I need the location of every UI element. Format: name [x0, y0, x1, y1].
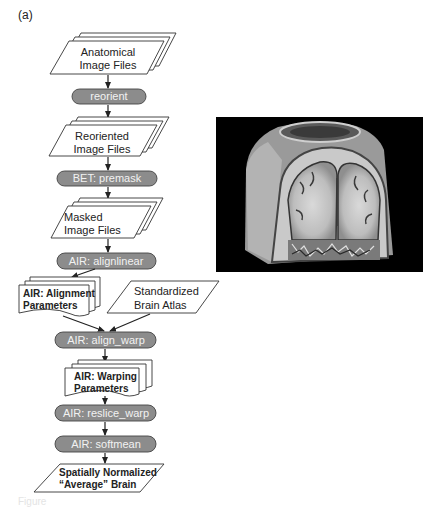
node-label-line2: Image Files [64, 224, 121, 236]
node-reoriented-image-files: Reoriented Image Files [49, 117, 169, 156]
node-air-reslice-warp: AIR: reslice_warp [55, 405, 156, 421]
brain-rendering-image [216, 117, 423, 272]
node-label-line1: AIR: Warping [74, 371, 137, 382]
node-label-line1: Masked [64, 211, 103, 223]
node-label-line2: Brain Atlas [134, 299, 187, 311]
node-label-line2: Parameters [74, 383, 129, 394]
node-air-warping-parameters: AIR: Warping Parameters [65, 360, 152, 396]
node-label-line2: Image Files [74, 143, 131, 155]
node-label-line2: “Average” Brain [59, 479, 136, 490]
node-standardized-brain-atlas: Standardized Brain Atlas [107, 281, 219, 313]
node-label-line1: Reoriented [75, 130, 129, 142]
edge-arrow [110, 314, 150, 331]
process-label: BET: premask [73, 172, 142, 184]
node-reorient: reorient [72, 89, 146, 104]
node-spatially-normalized-average-brain: Spatially Normalized “Average” Brain [34, 464, 164, 492]
node-label-line2: Image Files [80, 59, 137, 71]
node-air-alignlinear: AIR: alignlinear [57, 253, 156, 269]
node-label-line1: AIR: Alignment [23, 288, 96, 299]
node-bet-premask: BET: premask [57, 171, 157, 186]
node-label-line1: Standardized [134, 285, 199, 297]
node-air-softmean: AIR: softmean [55, 436, 156, 452]
panel-label: (a) [18, 8, 33, 22]
process-label: AIR: alignlinear [69, 255, 144, 267]
process-label: AIR: align_warp [67, 334, 145, 346]
figure-caption: Figure [18, 496, 47, 507]
node-air-align-warp: AIR: align_warp [55, 332, 156, 348]
edge-arrow [63, 316, 104, 331]
node-label-line1: Spatially Normalized [59, 467, 157, 478]
process-label: AIR: reslice_warp [63, 407, 149, 419]
edge-arrow [72, 269, 95, 277]
process-label: AIR: softmean [71, 438, 141, 450]
node-label-line2: Parameters [23, 300, 78, 311]
node-anatomical-image-files: Anatomical Image Files [50, 33, 176, 74]
node-masked-image-files: Masked Image Files [51, 198, 163, 238]
workflow-diagram: (a) Anatomical Image Files reorient Reor… [0, 0, 438, 507]
process-label: reorient [90, 90, 127, 102]
node-air-alignment-parameters: AIR: Alignment Parameters [19, 277, 100, 316]
node-label-line1: Anatomical [81, 46, 135, 58]
